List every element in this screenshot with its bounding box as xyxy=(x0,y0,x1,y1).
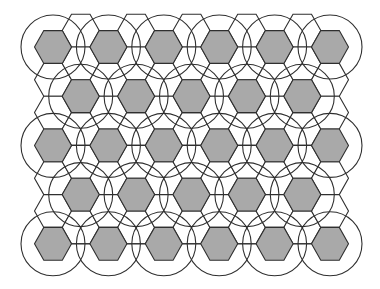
hex-lattice xyxy=(35,14,349,260)
hex-cell-coverage-diagram xyxy=(0,0,380,289)
